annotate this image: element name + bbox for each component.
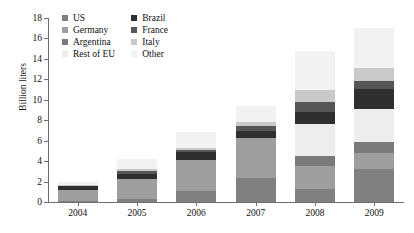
y-tick-label: 16 (33, 33, 43, 43)
bar-segment-brazil[interactable] (176, 152, 216, 160)
y-tick-label: 8 (37, 115, 42, 125)
bar-segment-us[interactable] (176, 191, 216, 202)
bar-segment-france[interactable] (354, 81, 394, 88)
x-tick-label: 2007 (246, 208, 265, 218)
y-tick-label: 14 (33, 54, 43, 64)
legend-label: Brazil (142, 13, 165, 23)
legend-label: Other (142, 49, 164, 59)
legend-swatch-argentina-icon (62, 39, 68, 45)
y-tick-mark (44, 38, 48, 39)
legend-label: Italy (142, 37, 159, 47)
y-tick-mark (44, 18, 48, 19)
legend-label: US (73, 13, 85, 23)
y-tick-mark (44, 100, 48, 101)
legend-label: France (142, 25, 168, 35)
bar-segment-france[interactable] (236, 126, 276, 131)
legend-item-argentina[interactable]: Argentina (62, 37, 115, 47)
legend-item-france[interactable]: France (131, 25, 168, 35)
bar-segment-france[interactable] (295, 102, 335, 112)
legend-label: Germany (73, 25, 108, 35)
bar-segment-italy[interactable] (176, 148, 216, 150)
y-tick-label: 12 (33, 74, 43, 84)
bar-segment-brazil[interactable] (236, 131, 276, 138)
y-tick-label: 6 (37, 136, 42, 146)
bar-segment-other[interactable] (295, 51, 335, 89)
bar-segment-france[interactable] (176, 150, 216, 152)
bar-segment-us[interactable] (295, 189, 335, 202)
bar-segment-germany[interactable] (176, 160, 216, 191)
bar-segment-italy[interactable] (117, 169, 157, 171)
x-tick-mark (256, 202, 257, 206)
y-tick-label: 2 (37, 177, 42, 187)
y-tick-mark (44, 79, 48, 80)
y-tick-label: 18 (33, 13, 43, 23)
legend-item-germany[interactable]: Germany (62, 25, 115, 35)
legend-item-rest-of-eu[interactable]: Rest of EU (62, 49, 115, 59)
bar-segment-rest-of-eu[interactable] (295, 124, 335, 156)
legend-label: Rest of EU (73, 49, 115, 59)
bar-segment-other[interactable] (176, 132, 216, 148)
bar-segment-germany[interactable] (58, 190, 98, 202)
bar-segment-other[interactable] (117, 159, 157, 169)
y-tick-mark (44, 202, 48, 203)
bar-segment-brazil[interactable] (58, 186, 98, 190)
bar-segment-france[interactable] (117, 171, 157, 174)
bar-segment-brazil[interactable] (295, 112, 335, 125)
x-tick-label: 2009 (365, 208, 384, 218)
x-tick-label: 2006 (187, 208, 206, 218)
x-tick-mark (315, 202, 316, 206)
legend-swatch-france-icon (131, 27, 137, 33)
legend-item-us[interactable]: US (62, 13, 115, 23)
legend-swatch-germany-icon (62, 27, 68, 33)
bar-2008[interactable] (295, 18, 335, 202)
bar-segment-germany[interactable] (295, 166, 335, 190)
bar-segment-argentina[interactable] (295, 156, 335, 166)
legend-item-other[interactable]: Other (131, 49, 168, 59)
bar-segment-germany[interactable] (236, 138, 276, 178)
y-tick-mark (44, 182, 48, 183)
bar-segment-germany[interactable] (117, 179, 157, 199)
x-tick-label: 2004 (68, 208, 87, 218)
legend-item-italy[interactable]: Italy (131, 37, 168, 47)
legend-item-brazil[interactable]: Brazil (131, 13, 168, 23)
x-tick-label: 2005 (128, 208, 147, 218)
y-axis-line (48, 18, 49, 202)
legend-swatch-other-icon (131, 51, 137, 57)
bar-segment-rest-of-eu[interactable] (354, 109, 394, 142)
y-tick-label: 4 (37, 156, 42, 166)
chart-legend: USBrazilGermanyFranceArgentinaItalyRest … (62, 13, 168, 59)
bar-segment-italy[interactable] (236, 122, 276, 127)
legend-swatch-brazil-icon (131, 15, 137, 21)
bar-segment-italy[interactable] (354, 68, 394, 81)
bar-segment-us[interactable] (117, 199, 157, 202)
y-tick-mark (44, 59, 48, 60)
bar-2007[interactable] (236, 18, 276, 202)
bar-segment-us[interactable] (58, 201, 98, 202)
x-axis-line (48, 202, 404, 203)
legend-swatch-us-icon (62, 15, 68, 21)
bar-segment-germany[interactable] (354, 153, 394, 169)
bar-segment-argentina[interactable] (354, 142, 394, 153)
legend-swatch-rest-of-eu-icon (62, 51, 68, 57)
y-tick-mark (44, 120, 48, 121)
bar-segment-italy[interactable] (58, 185, 98, 186)
bar-2006[interactable] (176, 18, 216, 202)
y-axis-title: Billion liters (18, 32, 28, 142)
bar-segment-other[interactable] (58, 182, 98, 185)
bar-segment-us[interactable] (354, 169, 394, 202)
bar-segment-italy[interactable] (295, 90, 335, 102)
bar-2009[interactable] (354, 18, 394, 202)
bar-segment-france[interactable] (58, 185, 98, 186)
bar-segment-other[interactable] (236, 106, 276, 122)
bar-segment-us[interactable] (236, 178, 276, 202)
x-tick-mark (137, 202, 138, 206)
bar-segment-other[interactable] (354, 28, 394, 68)
legend-label: Argentina (73, 37, 111, 47)
bar-segment-brazil[interactable] (354, 89, 394, 109)
legend-swatch-italy-icon (131, 39, 137, 45)
x-tick-mark (196, 202, 197, 206)
x-tick-mark (374, 202, 375, 206)
bar-segment-brazil[interactable] (117, 174, 157, 179)
x-tick-label: 2008 (306, 208, 325, 218)
y-tick-mark (44, 161, 48, 162)
